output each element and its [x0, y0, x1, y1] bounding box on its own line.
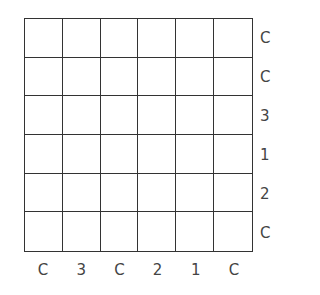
row-clue: 1 — [258, 135, 278, 174]
grid-cell[interactable] — [101, 212, 139, 251]
grid-cell[interactable] — [176, 135, 214, 174]
grid-cell[interactable] — [25, 135, 63, 174]
grid-cell[interactable] — [138, 58, 176, 97]
column-clues: C3C21C — [24, 258, 253, 282]
puzzle-grid — [24, 18, 253, 252]
column-clue: 3 — [62, 258, 100, 282]
grid-cell[interactable] — [63, 19, 101, 58]
row-clue: C — [258, 18, 278, 57]
column-clue: C — [100, 258, 138, 282]
grid-cell[interactable] — [63, 174, 101, 213]
grid-cell[interactable] — [214, 19, 252, 58]
grid-cell[interactable] — [101, 174, 139, 213]
grid-cell[interactable] — [214, 212, 252, 251]
grid-cell[interactable] — [101, 96, 139, 135]
grid-cell[interactable] — [63, 212, 101, 251]
row-clue: C — [258, 213, 278, 252]
row-clue: 3 — [258, 96, 278, 135]
grid-cell[interactable] — [176, 19, 214, 58]
column-clue: 2 — [139, 258, 177, 282]
grid-cell[interactable] — [176, 96, 214, 135]
row-clue: C — [258, 57, 278, 96]
grid-cell[interactable] — [25, 19, 63, 58]
column-clue: 1 — [177, 258, 215, 282]
grid-cell[interactable] — [63, 135, 101, 174]
grid-cell[interactable] — [138, 96, 176, 135]
grid-cell[interactable] — [63, 58, 101, 97]
grid-cell[interactable] — [138, 19, 176, 58]
grid-cell[interactable] — [138, 135, 176, 174]
grid-cell[interactable] — [101, 58, 139, 97]
grid-cell[interactable] — [25, 212, 63, 251]
grid-cell[interactable] — [101, 135, 139, 174]
grid-cell[interactable] — [63, 96, 101, 135]
grid-cell[interactable] — [214, 174, 252, 213]
grid-cell[interactable] — [176, 58, 214, 97]
column-clue: C — [24, 258, 62, 282]
grid-cell[interactable] — [214, 96, 252, 135]
grid-cell[interactable] — [176, 174, 214, 213]
row-clue: 2 — [258, 174, 278, 213]
column-clue: C — [215, 258, 253, 282]
grid-cell[interactable] — [176, 212, 214, 251]
grid-cell[interactable] — [214, 135, 252, 174]
grid-cell[interactable] — [25, 58, 63, 97]
grid-cell[interactable] — [25, 96, 63, 135]
grid-cell[interactable] — [101, 19, 139, 58]
grid-cell[interactable] — [138, 174, 176, 213]
row-clues: CC312C — [258, 18, 278, 252]
grid-cell[interactable] — [138, 212, 176, 251]
grid-cell[interactable] — [25, 174, 63, 213]
grid-cell[interactable] — [214, 58, 252, 97]
